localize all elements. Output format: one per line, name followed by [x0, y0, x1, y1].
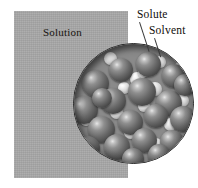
- solvent-sphere: [148, 144, 170, 164]
- magnifier-circle: [73, 43, 194, 164]
- solvent-sphere: [174, 74, 194, 96]
- solvent-sphere: [144, 104, 168, 128]
- solvent-sphere: [128, 78, 156, 106]
- solvent-sphere: [136, 52, 161, 77]
- particle-scene: [74, 44, 193, 163]
- solvent-sphere: [76, 136, 100, 160]
- solution-label: Solution: [43, 26, 82, 38]
- solution-diagram: Solution Solute Solvent: [0, 0, 198, 188]
- solvent-sphere: [109, 58, 133, 82]
- solvent-label: Solvent: [149, 24, 186, 36]
- solute-label: Solute: [137, 8, 168, 20]
- solvent-sphere: [92, 88, 112, 108]
- solvent-sphere: [170, 106, 194, 132]
- solvent-sphere: [122, 148, 144, 164]
